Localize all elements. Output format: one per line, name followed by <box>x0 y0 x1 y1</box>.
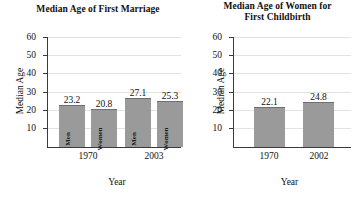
bar-value-2003-women: 25.3 <box>162 91 179 101</box>
chart-title-first-childbirth: Median Age of Women for First Childbirth <box>196 1 359 23</box>
gridline-40 <box>48 73 181 74</box>
gridline-40 <box>234 73 351 74</box>
y-tick-30: 30 <box>229 92 234 93</box>
y-tick-label-10: 10 <box>27 123 37 133</box>
y-tick-30: 30 <box>43 92 48 93</box>
bar-inner-label-1970-women: Women <box>96 128 104 151</box>
bar-inner-label-2003-women: Women <box>162 128 170 151</box>
y-tick-20: 20 <box>43 110 48 111</box>
y-tick-50: 50 <box>43 55 48 56</box>
gridline-60 <box>234 37 351 38</box>
bar-2003-women: 25.3 Women <box>157 101 183 147</box>
y-tick-label-60: 60 <box>27 32 37 42</box>
chart-title-line-1: Median Age of Women for <box>196 1 359 12</box>
y-tick-label-30: 30 <box>213 87 223 97</box>
x-tick-label-1970-right: 1970 <box>260 151 279 161</box>
bar-value-1970-men: 23.2 <box>64 95 81 105</box>
y-axis-label-left: Median Age <box>15 61 25 121</box>
chart-panel-first-childbirth: Median Age of Women for First Childbirth… <box>196 0 359 199</box>
gridline-50 <box>234 55 351 56</box>
y-tick-20: 20 <box>229 110 234 111</box>
bar-2003-men: 27.1 Men <box>125 98 151 147</box>
y-tick-40: 40 <box>43 73 48 74</box>
x-tick-label-2003-left: 2003 <box>145 151 164 161</box>
bar-1970-women: 20.8 Women <box>91 109 117 147</box>
chart-title-line-2: First Childbirth <box>196 12 359 23</box>
y-tick-60: 60 <box>43 37 48 38</box>
bar-value-1970-women: 20.8 <box>96 99 113 109</box>
y-tick-label-60: 60 <box>213 32 223 42</box>
bar-value-2002-childbirth: 24.8 <box>310 92 327 102</box>
y-tick-10: 10 <box>43 128 48 129</box>
bar-inner-label-2003-men: Men <box>130 132 138 146</box>
y-tick-label-50: 50 <box>27 50 37 60</box>
gridline-30 <box>234 92 351 93</box>
two-bar-charts-figure: Median Age of First Marriage Median Age … <box>0 0 359 199</box>
y-tick-50: 50 <box>229 55 234 56</box>
y-tick-10: 10 <box>229 128 234 129</box>
y-tick-label-50: 50 <box>213 50 223 60</box>
y-tick-label-40: 40 <box>27 68 37 78</box>
chart-panel-first-marriage: Median Age of First Marriage Median Age … <box>0 0 196 199</box>
x-tick-label-2002-right: 2002 <box>310 151 329 161</box>
y-tick-label-10: 10 <box>213 123 223 133</box>
plot-area-right: 10 20 30 40 50 60 22.1 24.8 19 <box>233 38 351 148</box>
chart-title-first-marriage: Median Age of First Marriage <box>0 4 196 15</box>
bar-value-1970-childbirth: 22.1 <box>261 97 278 107</box>
y-tick-label-30: 30 <box>27 87 37 97</box>
x-axis-label-left: Year <box>0 177 196 187</box>
y-tick-label-40: 40 <box>213 68 223 78</box>
x-axis-label-right: Year <box>196 177 359 187</box>
y-tick-40: 40 <box>229 73 234 74</box>
bar-value-2003-men: 27.1 <box>130 88 147 98</box>
y-tick-label-20: 20 <box>27 105 37 115</box>
y-tick-60: 60 <box>229 37 234 38</box>
gridline-60 <box>48 37 181 38</box>
bar-1970-men: 23.2 Men <box>59 105 85 147</box>
bar-inner-label-1970-men: Men <box>64 132 72 146</box>
bar-2002-childbirth: 24.8 <box>303 102 334 147</box>
plot-area-left: 10 20 30 40 50 60 23.2 Men 20 <box>47 38 181 148</box>
y-tick-label-20: 20 <box>213 105 223 115</box>
gridline-50 <box>48 55 181 56</box>
bar-1970-childbirth: 22.1 <box>254 107 285 147</box>
x-tick-label-1970-left: 1970 <box>79 151 98 161</box>
